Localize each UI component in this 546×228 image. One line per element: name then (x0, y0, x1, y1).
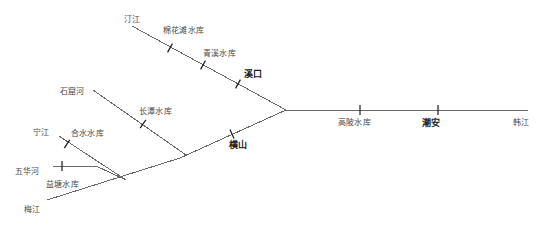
node-label-qingxi: 青溪水库 (203, 50, 236, 58)
tick-xikou (236, 80, 241, 89)
river-reach-tingjiang-to-junction (132, 26, 286, 110)
edge-layer (47, 26, 528, 200)
node-label-wuhuahe: 五华河 (15, 168, 40, 176)
node-label-meijiang: 梅江 (24, 206, 40, 214)
node-label-ningjiang: 宁江 (33, 129, 49, 137)
node-label-changtan: 长潭水库 (139, 108, 172, 116)
node-label-hanjiang: 韩江 (513, 119, 529, 127)
tick-qingxi (201, 61, 206, 70)
node-label-chaoan: 潮安 (422, 119, 441, 128)
node-label-heshui: 合水水库 (71, 130, 104, 138)
node-label-xikou: 溪口 (244, 70, 263, 79)
node-label-shikuhe: 石窟河 (60, 88, 85, 96)
river-reach-meijiang-trunk (47, 158, 180, 200)
river-reach-wuhuahe-to-junction (96, 166, 126, 180)
node-label-tingjiang: 汀江 (124, 16, 140, 24)
node-label-yitang: 益塘水库 (46, 181, 79, 189)
river-reach-hengshan-to-junction (180, 110, 286, 158)
river-network-diagram: 汀江棉花滩水库青溪水库溪口石窟河长潭水库宁江合水水库五华河益塘水库梅江横山高陂水… (0, 0, 546, 228)
node-label-hengshan: 横山 (229, 141, 248, 150)
node-label-mianhuatan: 棉花滩水库 (163, 27, 204, 35)
river-reach-shikuhe-branch (93, 90, 186, 155)
node-label-gaobei: 高陂水库 (338, 119, 371, 127)
river-reach-heshui-branch (59, 136, 126, 180)
network-canvas (0, 0, 546, 228)
